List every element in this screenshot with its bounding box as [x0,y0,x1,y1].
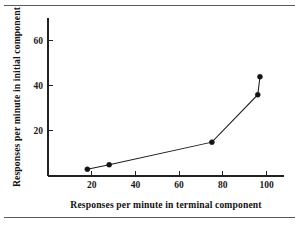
data-point-1 [107,162,112,167]
x-tick-label-40: 40 [131,180,141,190]
x-axis-title: Responses per minute in terminal compone… [70,199,262,210]
data-point-3 [255,92,260,97]
y-tick-label-40: 40 [34,81,44,91]
data-series-line [87,77,260,170]
x-tick-label-20: 20 [87,180,97,190]
x-axis-ticks [92,171,267,176]
y-tick-label-20: 20 [34,126,44,136]
data-point-2 [209,140,214,145]
data-point-4 [257,74,262,79]
figure-container: 20406080100 204060 Responses per minute … [0,0,299,231]
data-series-points [85,74,263,172]
y-axis-ticks [48,41,53,131]
x-axis-tick-labels: 20406080100 [87,180,274,190]
x-tick-label-80: 80 [218,180,228,190]
chart-canvas: 20406080100 204060 Responses per minute … [0,0,299,231]
x-tick-label-60: 60 [174,180,184,190]
x-tick-label-100: 100 [259,180,274,190]
y-axis-tick-labels: 204060 [34,36,44,136]
y-axis-title: Responses per minute in initial componen… [11,6,22,187]
y-tick-label-60: 60 [34,36,44,46]
data-point-0 [85,167,90,172]
